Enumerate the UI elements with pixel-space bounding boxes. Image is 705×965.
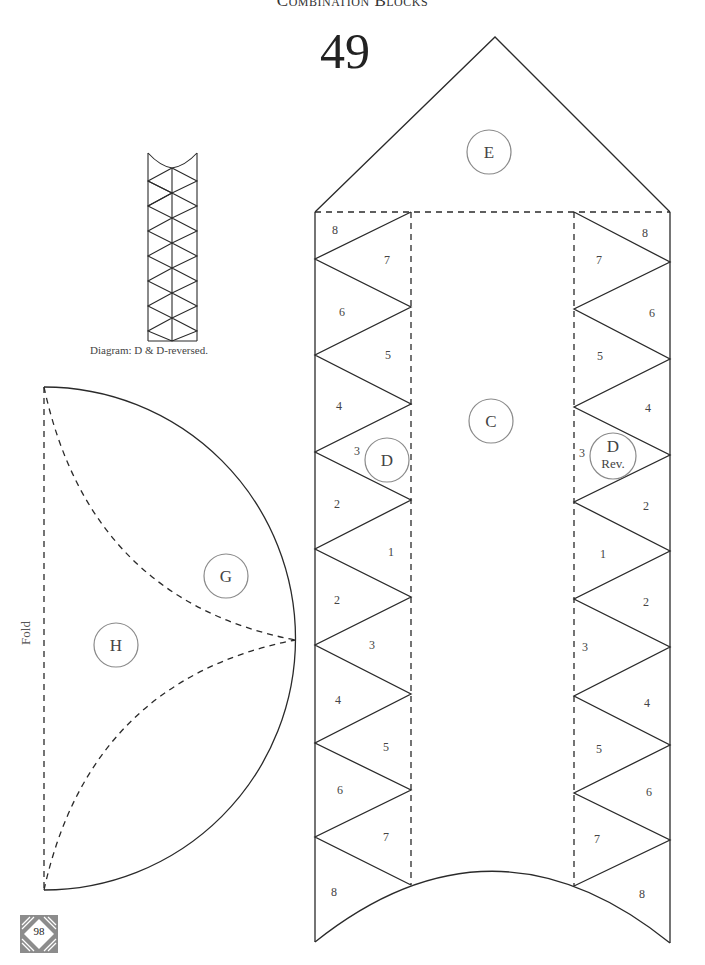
right-num: 2 — [643, 499, 649, 513]
right-num: 6 — [649, 306, 655, 320]
left-num: 3 — [369, 638, 375, 652]
right-num: 8 — [639, 887, 645, 901]
right-num: 6 — [646, 785, 652, 799]
right-num: 2 — [643, 595, 649, 609]
small-diagram — [148, 153, 197, 341]
left-num: 5 — [385, 348, 391, 362]
fold-label: Fold — [18, 621, 34, 645]
piece-e-outline — [315, 37, 670, 212]
right-num: 4 — [644, 696, 650, 710]
right-num: 4 — [645, 401, 651, 415]
right-num: 7 — [596, 253, 602, 267]
left-num: 5 — [383, 740, 389, 754]
piece-d-rev-sub: Rev. — [601, 456, 624, 471]
right-num: 7 — [594, 832, 600, 846]
right-num: 3 — [579, 446, 585, 460]
left-num: 7 — [383, 830, 389, 844]
right-num: 3 — [582, 640, 588, 654]
quilt-template: E C D D Rev. G H 8 7 6 5 4 3 2 1 2 3 4 5… — [0, 0, 705, 965]
right-num: 5 — [596, 742, 602, 756]
piece-h-label: H — [110, 636, 122, 655]
half-circle-outline — [44, 387, 296, 890]
piece-c-label: C — [485, 412, 496, 431]
left-num: 4 — [336, 399, 342, 413]
piece-e-label: E — [484, 143, 494, 162]
left-num: 4 — [335, 693, 341, 707]
left-num: 1 — [388, 545, 394, 559]
piece-d-rev-letter: D — [607, 437, 619, 456]
left-num: 6 — [337, 783, 343, 797]
left-num: 2 — [334, 593, 340, 607]
left-num: 8 — [331, 885, 337, 899]
right-num: 1 — [600, 547, 606, 561]
page-number: 98 — [20, 925, 58, 937]
left-num: 6 — [339, 305, 345, 319]
left-zigzag — [315, 212, 411, 885]
left-num: 3 — [354, 444, 360, 458]
left-num: 7 — [384, 253, 390, 267]
piece-g-label: G — [220, 567, 232, 586]
left-num: 2 — [334, 497, 340, 511]
right-num: 5 — [597, 349, 603, 363]
diagram-caption: Diagram: D & D-reversed. — [90, 344, 208, 356]
left-num: 8 — [332, 223, 338, 237]
piece-d-label: D — [381, 451, 393, 470]
right-zigzag — [574, 212, 670, 886]
right-num: 8 — [642, 226, 648, 240]
